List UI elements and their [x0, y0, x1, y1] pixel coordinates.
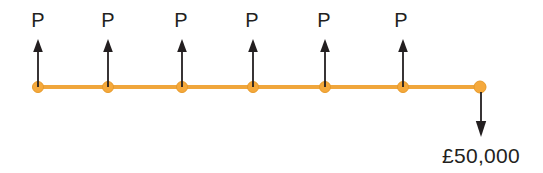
inflow-label-4: P	[245, 10, 259, 30]
inflow-arrow-up-icon	[248, 39, 258, 87]
outflow-amount-label: £50,000	[442, 145, 520, 166]
inflow-label-5: P	[317, 10, 331, 30]
inflow-arrow-up-icon	[398, 39, 408, 87]
inflow-label-2: P	[101, 10, 115, 30]
timeline-node	[474, 81, 486, 93]
inflow-label-3: P	[174, 10, 188, 30]
inflow-arrow-up-icon	[33, 39, 43, 87]
inflow-arrow-up-icon	[103, 39, 113, 87]
cash-flow-timeline-diagram: P P P P P P £50,000	[0, 0, 543, 173]
inflow-arrow-up-icon	[320, 39, 330, 87]
inflow-label-1: P	[31, 10, 45, 30]
inflow-arrow-up-icon	[177, 39, 187, 87]
outflow-arrow-down-icon	[476, 92, 486, 137]
inflow-arrow-group	[33, 39, 408, 87]
inflow-label-6: P	[394, 10, 408, 30]
